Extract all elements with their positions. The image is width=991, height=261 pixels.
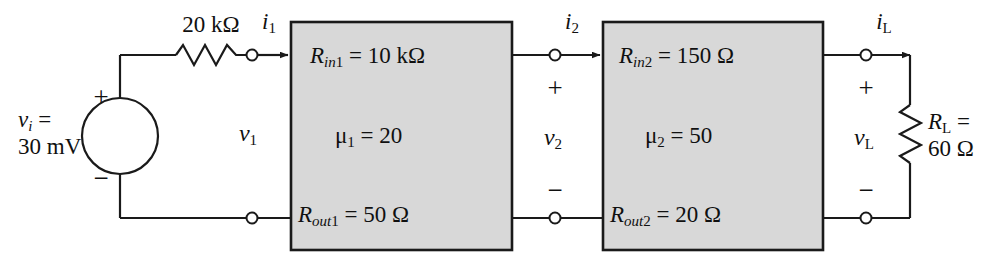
port2-minus-sign: − — [547, 176, 562, 204]
source-equals: = — [32, 107, 51, 132]
source-label: vi = 30 mV — [18, 108, 81, 159]
terminal-node-i2 — [550, 50, 561, 61]
load-resistor-value: 60 Ω — [928, 137, 974, 161]
resistor-20k-symbol — [176, 45, 246, 65]
block1-rin-label: Rin1 = 10 kΩ — [310, 44, 425, 71]
block1-mu-label: μ1 = 20 — [335, 124, 402, 151]
source-value: 30 mV — [18, 135, 81, 159]
port-load-minus-sign: − — [858, 176, 873, 204]
wire-source-top — [120, 55, 176, 98]
current-label-i1: i1 — [262, 10, 276, 37]
source-symbol: v — [18, 107, 28, 132]
block1-rout-label: Rout1 = 50 Ω — [298, 203, 409, 230]
block2-mu-label: μ2 = 50 — [645, 124, 712, 151]
schematic-svg — [0, 0, 991, 261]
port-load-plus-sign: + — [858, 74, 873, 102]
source-plus-sign: + — [93, 83, 108, 111]
series-resistor-label: 20 kΩ — [182, 13, 239, 37]
terminal-node-i1 — [247, 50, 258, 61]
voltage-label-v2: v2 — [544, 125, 562, 153]
load-resistor-symbol — [900, 55, 921, 218]
port2-plus-sign: + — [547, 74, 562, 102]
terminal-node-iL — [861, 50, 872, 61]
circuit-diagram-canvas: vi = 30 mV + − 20 kΩ i1 v1 Rin1 = 10 kΩ … — [0, 0, 991, 261]
source-minus-sign: − — [93, 164, 108, 192]
terminal-node-load-bottom — [861, 213, 872, 224]
load-resistor-label: RL = 60 Ω — [928, 110, 974, 161]
block2-rin-label: Rin2 = 150 Ω — [619, 44, 734, 71]
block2-rout-label: Rout2 = 20 Ω — [610, 203, 721, 230]
current-label-iL: iL — [876, 10, 892, 37]
voltage-label-v1: v1 — [239, 121, 257, 149]
terminal-node-block2-bottom — [550, 213, 561, 224]
terminal-node-block1-bottom — [247, 213, 258, 224]
current-label-i2: i2 — [565, 10, 579, 37]
voltage-label-vL: vL — [854, 125, 874, 153]
